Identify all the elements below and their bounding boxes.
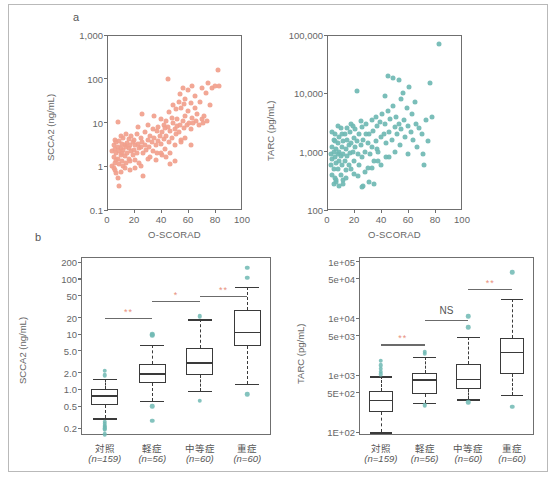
data-point [437, 42, 442, 47]
median-line [369, 400, 394, 401]
data-point [145, 156, 150, 161]
y-tick-mark [78, 317, 82, 318]
data-point [188, 143, 193, 148]
data-point [362, 169, 367, 174]
data-point [164, 133, 169, 138]
data-point [387, 129, 392, 134]
data-point [420, 152, 425, 157]
data-point [353, 127, 358, 132]
significance-line [468, 289, 512, 290]
whisker-upper [152, 345, 153, 364]
data-point [393, 114, 398, 119]
whisker-lower [468, 389, 469, 399]
scatter-tarc-axes [327, 35, 462, 210]
y-tick-mark [324, 210, 328, 211]
outlier-point [198, 399, 203, 404]
data-point [377, 120, 382, 125]
group-count-label: (n=159) [364, 453, 397, 464]
data-point [215, 67, 220, 72]
data-point [373, 139, 378, 144]
outlier-point [103, 427, 108, 432]
data-point [343, 176, 348, 181]
outlier-point [245, 392, 250, 397]
data-point [145, 122, 150, 127]
cap-lower [188, 391, 212, 392]
median-line [412, 379, 437, 380]
cap-lower [370, 432, 393, 433]
y-tick-mark [104, 210, 108, 211]
group-count-label: (n=60) [233, 453, 261, 464]
data-point [374, 147, 379, 152]
data-point [195, 111, 200, 116]
x-tick-label: 40 [376, 214, 387, 225]
box-rect [91, 389, 118, 405]
data-point [426, 139, 431, 144]
whisker-upper [381, 376, 382, 391]
y-tick-mark [104, 166, 108, 167]
data-point [331, 181, 336, 186]
y-tick-label: 1E+02 [307, 427, 355, 438]
box-rect [456, 364, 481, 390]
data-point [117, 184, 122, 189]
data-point [186, 88, 191, 93]
y-tick-mark [324, 35, 328, 36]
data-point [153, 157, 158, 162]
data-point [335, 167, 340, 172]
data-point [113, 168, 118, 173]
data-point [395, 132, 400, 137]
significance-line [105, 318, 153, 319]
data-point [362, 149, 367, 154]
data-point [404, 106, 409, 111]
data-point [372, 181, 377, 186]
data-point [369, 166, 374, 171]
box-rect [500, 338, 525, 374]
x-tick-label: 40 [156, 214, 167, 225]
data-point [177, 91, 182, 96]
data-point [164, 155, 169, 160]
median-line [500, 352, 525, 353]
data-point [141, 173, 146, 178]
data-point [407, 84, 412, 89]
data-point [360, 184, 365, 189]
significance-label: ** [219, 285, 228, 295]
data-point [198, 99, 203, 104]
y-tick-mark [356, 278, 360, 279]
data-point [192, 94, 197, 99]
x-tick-label: 20 [129, 214, 140, 225]
data-point [411, 137, 416, 142]
y-tick-mark [104, 35, 108, 36]
data-point [333, 139, 338, 144]
data-point [337, 183, 342, 188]
x-axis-label: O-SCORAD [148, 229, 201, 240]
median-line [234, 332, 261, 333]
data-point [176, 99, 181, 104]
data-point [354, 88, 359, 93]
data-point [350, 149, 355, 154]
outlier-point [198, 314, 203, 319]
x-tick-label: 20 [349, 214, 360, 225]
x-tick-label: 80 [210, 214, 221, 225]
y-tick-label: 1.0 [29, 384, 77, 395]
group-count-label: (n=56) [138, 453, 166, 464]
box-sccа2-axes [81, 257, 271, 435]
x-tick-label: 100 [454, 214, 470, 225]
data-point [192, 105, 197, 110]
figure-frame: a b 0.11101001,000020406080100SCCA2 (ng/… [8, 4, 548, 472]
data-point [352, 158, 357, 163]
outlier-point [103, 432, 108, 437]
data-point [399, 127, 404, 132]
data-point [406, 152, 411, 157]
x-tick-mark [134, 209, 135, 213]
data-point [136, 124, 141, 129]
data-point [168, 151, 173, 156]
whisker-upper [468, 337, 469, 364]
data-point [330, 129, 335, 134]
y-tick-label: 5E+02 [307, 387, 355, 398]
data-point [391, 76, 396, 81]
data-point [165, 76, 170, 81]
significance-label: ** [124, 307, 133, 317]
y-tick-label: 200 [29, 257, 77, 268]
data-point [400, 91, 405, 96]
outlier-point [466, 400, 471, 405]
data-point [115, 119, 120, 124]
